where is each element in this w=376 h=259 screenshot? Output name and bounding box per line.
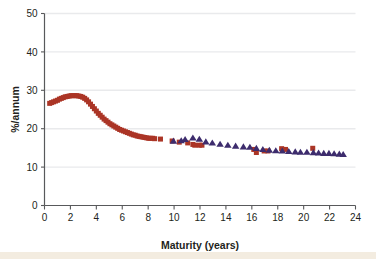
x-axis-title: Maturity (years) <box>161 239 239 251</box>
data-point-square <box>192 143 197 148</box>
y-axis-title: %/annum <box>9 86 21 133</box>
y-tick-label-40: 40 <box>26 47 38 58</box>
data-point-triangle <box>303 149 310 155</box>
data-point-square <box>152 136 157 141</box>
x-tick-label-2: 2 <box>68 212 74 223</box>
data-point-triangle <box>189 134 196 140</box>
y-tick-label-30: 30 <box>26 85 38 96</box>
data-point-square <box>158 137 163 142</box>
data-point-triangle <box>240 143 247 149</box>
x-tick-label-14: 14 <box>220 212 232 223</box>
data-point-triangle <box>216 141 223 147</box>
y-tick-label-0: 0 <box>32 200 38 211</box>
data-point-triangle <box>181 136 188 142</box>
data-point-triangle <box>224 142 231 148</box>
data-point-triangle <box>297 149 304 155</box>
axis-lines-group <box>45 14 356 206</box>
data-point-triangle <box>196 136 203 142</box>
y-tick-label-10: 10 <box>26 162 38 173</box>
data-point-triangle <box>272 147 279 153</box>
series-red-squares <box>47 93 315 155</box>
x-tick-label-24: 24 <box>350 212 362 223</box>
x-tick-labels-group: 024681012141618202224 <box>42 212 362 223</box>
data-point-triangle <box>246 144 253 150</box>
axis-titles-group: Maturity (years)%/annum <box>9 86 239 251</box>
axis-ticks-group <box>41 14 356 210</box>
data-point-triangle <box>232 143 239 149</box>
figure-canvas: 024681012141618202224 01020304050 Maturi… <box>0 0 376 259</box>
footer-strip <box>0 252 376 259</box>
y-tick-label-50: 50 <box>26 8 38 19</box>
x-tick-label-20: 20 <box>298 212 310 223</box>
x-tick-label-18: 18 <box>272 212 284 223</box>
x-tick-label-0: 0 <box>42 212 48 223</box>
x-tick-label-22: 22 <box>324 212 336 223</box>
x-tick-label-10: 10 <box>169 212 181 223</box>
y-tick-labels-group: 01020304050 <box>26 8 38 211</box>
x-tick-label-4: 4 <box>94 212 100 223</box>
x-tick-label-16: 16 <box>246 212 258 223</box>
y-tick-label-20: 20 <box>26 123 38 134</box>
x-tick-label-8: 8 <box>145 212 151 223</box>
data-point-square <box>310 146 315 151</box>
data-point-triangle <box>202 138 209 144</box>
x-tick-label-12: 12 <box>194 212 206 223</box>
data-point-triangle <box>209 139 216 145</box>
chart-plot-area: 024681012141618202224 01020304050 Maturi… <box>0 0 376 259</box>
x-tick-label-6: 6 <box>119 212 125 223</box>
